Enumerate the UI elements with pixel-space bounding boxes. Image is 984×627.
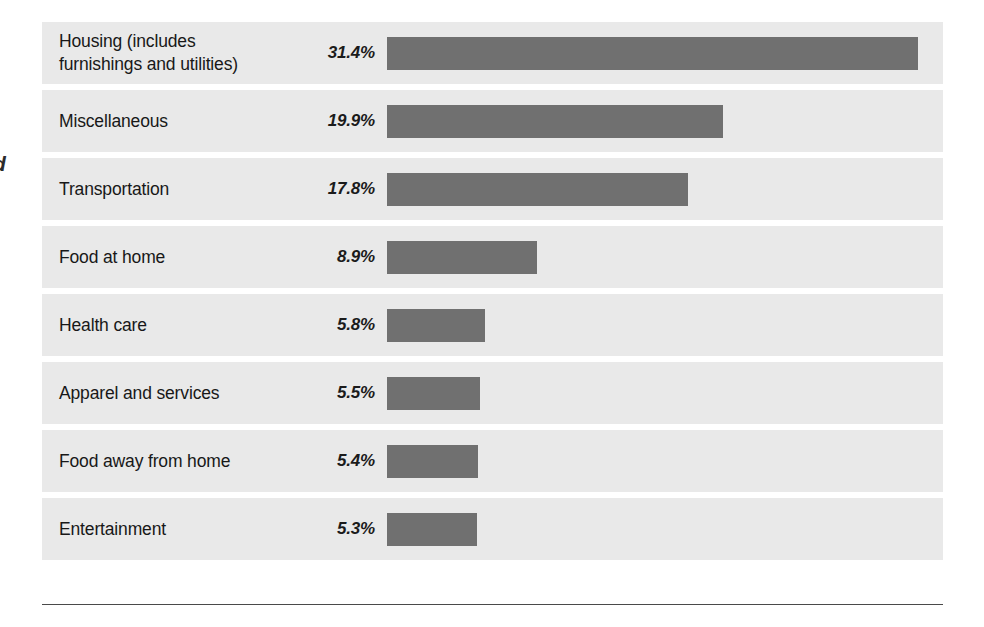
category-label: Miscellaneous <box>59 90 299 152</box>
bar-track <box>387 430 943 492</box>
table-row: Miscellaneous 19.9% <box>42 90 943 152</box>
table-row: Transportation 17.8% <box>42 158 943 220</box>
bar-fill <box>387 173 688 206</box>
category-label: Housing (includes furnishings and utilit… <box>59 22 299 84</box>
category-label-line2: furnishings and utilities) <box>59 54 238 74</box>
bar-track <box>387 498 943 560</box>
bar-track <box>387 294 943 356</box>
bar-fill <box>387 377 480 410</box>
bar-track <box>387 158 943 220</box>
bar-fill <box>387 241 537 274</box>
value-label: 17.8% <box>297 158 375 220</box>
bar-track <box>387 362 943 424</box>
value-label: 5.4% <box>297 430 375 492</box>
table-row: Apparel and services 5.5% <box>42 362 943 424</box>
bar-fill <box>387 445 478 478</box>
table-row: Food away from home 5.4% <box>42 430 943 492</box>
table-row: Health care 5.8% <box>42 294 943 356</box>
bar-track <box>387 226 943 288</box>
bar-chart: Housing (includes furnishings and utilit… <box>42 22 943 580</box>
category-label: Health care <box>59 294 299 356</box>
table-row: Food at home 8.9% <box>42 226 943 288</box>
bar-track <box>387 22 943 84</box>
value-label: 5.8% <box>297 294 375 356</box>
bar-fill <box>387 309 485 342</box>
bar-fill <box>387 105 723 138</box>
category-label-line1: Housing (includes <box>59 31 196 51</box>
value-label: 19.9% <box>297 90 375 152</box>
category-label: Food away from home <box>59 430 299 492</box>
category-label: Entertainment <box>59 498 299 560</box>
category-label: Apparel and services <box>59 362 299 424</box>
table-row: Housing (includes furnishings and utilit… <box>42 22 943 84</box>
value-label: 5.5% <box>297 362 375 424</box>
bar-fill <box>387 37 918 70</box>
value-label: 31.4% <box>297 22 375 84</box>
category-label: Food at home <box>59 226 299 288</box>
footer-divider <box>42 604 943 605</box>
bar-track <box>387 90 943 152</box>
bar-fill <box>387 513 477 546</box>
value-label: 8.9% <box>297 226 375 288</box>
table-row: Entertainment 5.3% <box>42 498 943 560</box>
page-margin-partial-glyph: d <box>0 152 6 176</box>
category-label: Transportation <box>59 158 299 220</box>
value-label: 5.3% <box>297 498 375 560</box>
